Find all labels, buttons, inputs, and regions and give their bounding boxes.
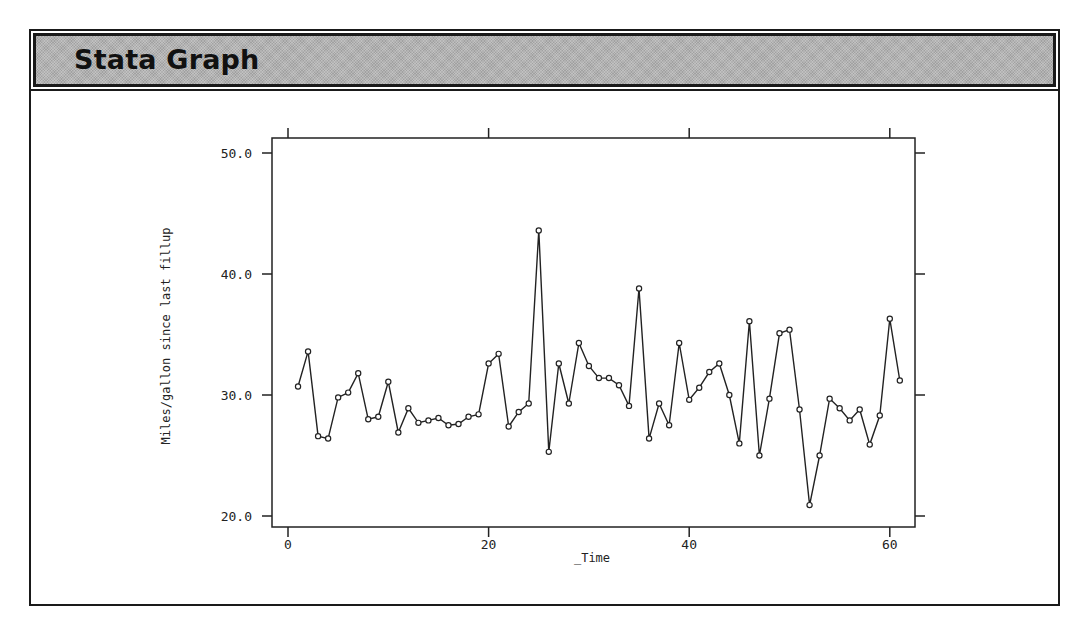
x-axis-title: _Time <box>574 551 610 565</box>
data-point-marker <box>406 406 411 411</box>
data-point-marker <box>396 430 401 435</box>
y-axis-title: Miles/gallon since last fillup <box>159 228 173 445</box>
data-point-marker <box>386 379 391 384</box>
plot-area <box>272 138 915 527</box>
y-tick-label: 30.0 <box>221 388 252 403</box>
data-point-marker <box>446 423 451 428</box>
data-point-marker <box>727 392 732 397</box>
data-point-marker <box>536 228 541 233</box>
data-point-marker <box>356 371 361 376</box>
data-point-marker <box>817 453 822 458</box>
data-point-marker <box>646 436 651 441</box>
data-point-marker <box>827 396 832 401</box>
data-point-marker <box>777 331 782 336</box>
x-tick-label: 20 <box>481 537 497 552</box>
data-point-marker <box>486 361 491 366</box>
data-point-marker <box>305 349 310 354</box>
data-point-marker <box>546 449 551 454</box>
data-point-marker <box>366 417 371 422</box>
data-point-marker <box>687 397 692 402</box>
data-point-marker <box>636 286 641 291</box>
data-point-marker <box>315 434 320 439</box>
x-axis: 0204060 <box>284 128 898 552</box>
data-point-marker <box>847 418 852 423</box>
data-point-marker <box>697 385 702 390</box>
data-point-marker <box>616 383 621 388</box>
series-line <box>298 230 900 505</box>
data-point-marker <box>626 403 631 408</box>
y-tick-label: 20.0 <box>221 509 252 524</box>
data-point-marker <box>717 361 722 366</box>
data-point-marker <box>837 406 842 411</box>
data-point-marker <box>376 414 381 419</box>
data-point-marker <box>516 409 521 414</box>
data-point-marker <box>506 424 511 429</box>
data-point-marker <box>877 413 882 418</box>
data-point-marker <box>566 401 571 406</box>
data-point-marker <box>346 390 351 395</box>
data-point-marker <box>586 363 591 368</box>
data-point-marker <box>496 351 501 356</box>
data-point-marker <box>326 436 331 441</box>
data-point-marker <box>677 340 682 345</box>
x-tick-label: 60 <box>882 537 898 552</box>
data-point-marker <box>657 401 662 406</box>
data-point-marker <box>436 415 441 420</box>
data-point-marker <box>857 407 862 412</box>
data-point-marker <box>867 442 872 447</box>
data-point-marker <box>737 441 742 446</box>
data-point-marker <box>887 316 892 321</box>
y-axis: 20.030.040.050.0 <box>221 146 925 524</box>
data-point-marker <box>596 375 601 380</box>
data-point-marker <box>556 361 561 366</box>
data-point-marker <box>526 401 531 406</box>
data-point-marker <box>897 378 902 383</box>
y-tick-label: 50.0 <box>221 146 252 161</box>
line-chart: 20.030.040.050.0 0204060 _Time Miles/gal… <box>0 0 1085 633</box>
data-point-marker <box>797 407 802 412</box>
data-point-marker <box>767 396 772 401</box>
x-tick-label: 40 <box>681 537 697 552</box>
data-point-marker <box>426 418 431 423</box>
data-point-marker <box>336 395 341 400</box>
data-point-marker <box>295 384 300 389</box>
data-series <box>295 228 902 508</box>
data-point-marker <box>667 423 672 428</box>
data-point-marker <box>807 503 812 508</box>
x-tick-label: 0 <box>284 537 292 552</box>
data-point-marker <box>476 412 481 417</box>
data-point-marker <box>787 327 792 332</box>
data-point-marker <box>606 375 611 380</box>
data-point-marker <box>757 453 762 458</box>
data-point-marker <box>576 340 581 345</box>
data-point-marker <box>416 420 421 425</box>
data-point-marker <box>747 319 752 324</box>
data-point-marker <box>707 369 712 374</box>
data-point-marker <box>466 414 471 419</box>
data-point-marker <box>456 421 461 426</box>
y-tick-label: 40.0 <box>221 267 252 282</box>
